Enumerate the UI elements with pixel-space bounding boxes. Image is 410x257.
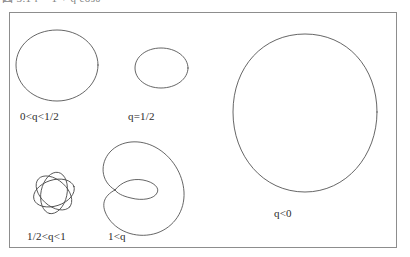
figure-caption-strip: 図 3.1 r = 1 + q cosθ bbox=[0, 0, 410, 8]
figure-frame-border bbox=[9, 12, 397, 248]
curve-label-d: 1<q bbox=[108, 230, 126, 242]
figure-root: 図 3.1 r = 1 + q cosθ 0<q<1/2 q=1/2 1/2<q… bbox=[0, 0, 410, 257]
curve-label-c: 1/2<q<1 bbox=[27, 230, 66, 242]
curve-label-a: 0<q<1/2 bbox=[20, 110, 59, 122]
curve-label-b: q=1/2 bbox=[128, 110, 155, 122]
curve-label-e: q<0 bbox=[274, 207, 292, 219]
figure-caption: 図 3.1 r = 1 + q cosθ bbox=[2, 0, 101, 4]
